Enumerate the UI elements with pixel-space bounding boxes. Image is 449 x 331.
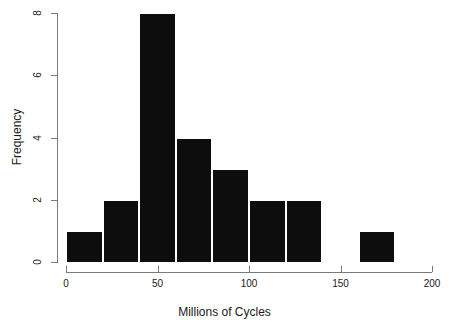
x-axis-tick [66,266,67,272]
histogram-bar [139,13,176,262]
y-axis-line [57,13,58,263]
histogram-bar [212,169,249,262]
histogram-bar [103,200,140,262]
y-axis-tick [51,13,57,14]
y-axis-tick [51,138,57,139]
y-axis-tick [51,75,57,76]
histogram-bar [359,231,396,262]
plot-area: 02468 Frequency 050100150200 Millions of… [0,0,449,331]
y-axis-tick-label: 4 [33,128,43,148]
x-axis-tick-label: 150 [326,278,356,289]
x-axis-tick [158,266,159,272]
histogram-bar [286,200,323,262]
histogram-bar [176,138,213,263]
x-axis-tick [432,266,433,272]
x-axis-title: Millions of Cycles [0,305,449,319]
x-axis-line [66,272,432,273]
histogram-bar [66,231,103,262]
x-axis-tick-label: 0 [51,278,81,289]
y-axis-title: Frequency [10,87,24,187]
y-axis-tick [51,262,57,263]
x-axis-tick [341,266,342,272]
x-axis-tick-label: 50 [143,278,173,289]
x-axis-tick [249,266,250,272]
y-axis-tick-label: 0 [33,252,43,272]
y-axis-tick-label: 8 [33,3,43,23]
y-axis-tick [51,200,57,201]
y-axis-tick-label: 2 [33,190,43,210]
x-axis-tick-label: 100 [234,278,264,289]
x-axis-tick-label: 200 [417,278,447,289]
y-axis-tick-label: 6 [33,65,43,85]
histogram-figure: 02468 Frequency 050100150200 Millions of… [0,0,449,331]
histogram-bar [249,200,286,262]
